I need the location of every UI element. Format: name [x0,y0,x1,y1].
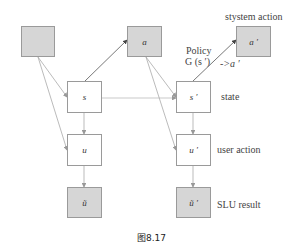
node-previous-action [21,26,55,57]
edge-a-to-u-prime [146,57,176,150]
policy-arrow-text: ->a ′ [220,58,240,69]
edge-s-to-a [85,40,127,81]
node-state-s-prime: s ′ [176,81,211,113]
node-user-action-u-prime-label: u ′ [189,145,198,155]
node-slu-result-u-tilde-prime: ũ ′ [176,187,211,218]
dialogue-dbn-diagram: s a u ũ s ′ a ′ u ′ ũ ′ stystem action s… [0,0,298,248]
node-state-s-prime-label: s ′ [190,92,198,102]
node-slu-result-u-tilde-prime-label: ũ ′ [189,198,198,208]
policy-label: Policy G (s ′) [186,45,212,67]
node-user-action-u: u [67,134,102,166]
edge-prev-to-s [38,57,67,97]
label-user-action: user action [217,145,261,155]
label-system-action: stystem action [225,12,283,22]
label-state: state [221,92,239,102]
node-action-a-prime: a ′ [236,26,271,57]
node-user-action-u-label: u [82,145,87,155]
node-user-action-u-prime: u ′ [176,134,211,166]
node-action-a-label: a [142,37,147,47]
figure-caption: 图8.17 [137,231,166,244]
label-slu-result: SLU result [217,200,261,210]
edge-prev-to-u [38,57,67,150]
policy-line1: Policy [186,45,212,56]
node-state-s: s [67,81,102,113]
node-state-s-label: s [83,92,87,102]
policy-line2: G (s ′) [185,56,212,67]
node-slu-result-u-tilde: ũ [67,187,102,218]
edge-a-to-s-prime [146,57,176,97]
node-action-a-prime-label: a ′ [249,37,258,47]
node-action-a: a [127,26,162,57]
node-slu-result-u-tilde-label: ũ [82,198,87,208]
